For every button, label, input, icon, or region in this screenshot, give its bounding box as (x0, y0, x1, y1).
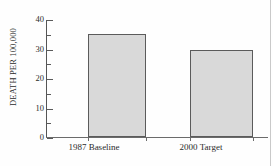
page-edge-line (270, 0, 271, 166)
y-tick-20: 20 (47, 79, 53, 80)
baseline-tick-left-2 (190, 137, 191, 141)
y-tick-minor-25 (47, 64, 51, 65)
bar-1987-baseline (88, 34, 146, 137)
y-tick-0: 0 (47, 138, 53, 139)
x-axis-label-2000-target: 2000 Target (150, 142, 252, 152)
y-tick-minor-15 (47, 94, 51, 95)
y-tick-label-10: 10 (36, 103, 45, 114)
baseline-tick-right-1 (146, 137, 147, 141)
y-tick-minor-5 (47, 123, 51, 124)
bar-2000-target (190, 50, 253, 137)
y-tick-30: 30 (47, 50, 53, 51)
x-axis-line (46, 137, 268, 138)
bar-chart: DEATH PER 100,000 40 30 20 10 0 1987 (0, 0, 273, 166)
y-tick-label-20: 20 (36, 73, 45, 84)
y-tick-40: 40 (47, 20, 53, 21)
x-axis-label-1987-baseline: 1987 Baseline (48, 142, 140, 152)
y-axis-title: DEATH PER 100,000 (8, 7, 18, 127)
baseline-tick-left-1 (88, 137, 89, 141)
y-tick-10: 10 (47, 109, 53, 110)
y-tick-label-40: 40 (36, 14, 45, 25)
y-tick-minor-35 (47, 35, 51, 36)
y-tick-label-0: 0 (40, 132, 44, 143)
plot-area: 40 30 20 10 0 (46, 20, 268, 138)
baseline-tick-right-2 (253, 137, 254, 141)
y-tick-label-30: 30 (36, 44, 45, 55)
